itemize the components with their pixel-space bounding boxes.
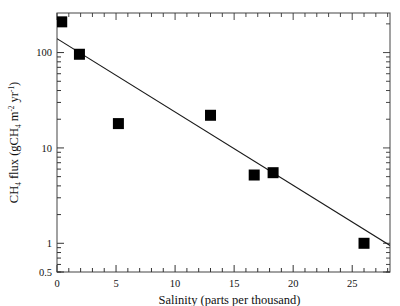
data-point-marker	[359, 238, 370, 249]
trendline	[57, 39, 390, 246]
y-tick-label: 1	[47, 238, 52, 249]
data-point-marker	[249, 170, 260, 181]
y-tick-label: 0.5	[39, 267, 52, 278]
x-axis-title: Salinity (parts per thousand)	[159, 293, 301, 306]
data-points-group	[56, 16, 369, 248]
x-tick-label: 20	[288, 278, 299, 289]
y-tick-label: 10	[42, 143, 53, 154]
chart-canvas: 05101520250.5110100Salinity (parts per t…	[0, 0, 400, 306]
x-tick-label: 0	[54, 278, 59, 289]
data-point-marker	[205, 110, 216, 121]
data-point-marker	[268, 167, 279, 178]
data-point-marker	[113, 118, 124, 129]
y-axis-title: CH4 flux (gCH4 m-2 yr-1)	[7, 82, 23, 203]
x-tick-label: 15	[229, 278, 240, 289]
trendline-group	[57, 39, 390, 246]
data-point-marker	[56, 16, 67, 27]
y-axis-title-text: CH4 flux (gCH4 m-2 yr-1)	[7, 82, 23, 203]
x-tick-label: 10	[170, 278, 181, 289]
data-point-marker	[74, 49, 85, 60]
x-tick-label: 5	[113, 278, 118, 289]
figure-container: 05101520250.5110100Salinity (parts per t…	[0, 0, 400, 306]
y-tick-label: 100	[36, 47, 52, 58]
x-tick-label: 25	[347, 278, 358, 289]
